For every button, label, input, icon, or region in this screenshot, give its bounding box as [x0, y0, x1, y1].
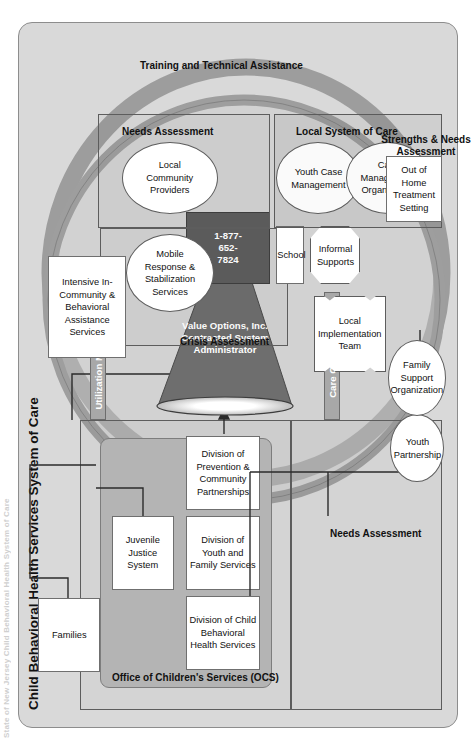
informal-supports-node[interactable]: Informal Supports	[310, 226, 360, 284]
family-support-organization-label: Family Support Organization	[390, 359, 444, 397]
out-of-home-treatment-node[interactable]: Out of Home Treatment Setting	[386, 156, 442, 222]
youth-partnership-node[interactable]: Youth Partnership	[390, 414, 444, 482]
region-needs-assessment-top-label: Needs Assessment	[122, 126, 213, 137]
local-implementation-team-label: Local Implementation Team	[316, 315, 384, 353]
rotated-diagram-host: State of New Jersey Child Behavioral Hea…	[0, 0, 473, 750]
diagram-stage: State of New Jersey Child Behavioral Hea…	[0, 0, 473, 750]
out-of-home-treatment-label: Out of Home Treatment Setting	[388, 164, 440, 214]
informal-supports-label: Informal Supports	[311, 243, 359, 268]
region-training-ta-label: Training and Technical Assistance	[140, 60, 303, 71]
local-community-providers-label: Local Community Providers	[139, 159, 201, 197]
intensive-in-community-box[interactable]: Intensive In-Community & Behavioral Assi…	[48, 256, 126, 358]
intensive-in-community-label: Intensive In-Community & Behavioral Assi…	[50, 276, 124, 339]
mobile-response-node[interactable]: Mobile Response & Stabilization Services	[126, 234, 214, 312]
school-label: School	[277, 249, 303, 262]
family-support-organization-node[interactable]: Family Support Organization	[388, 340, 446, 416]
school-box[interactable]: School	[276, 226, 304, 284]
local-implementation-team-node[interactable]: Local Implementation Team	[314, 296, 386, 372]
local-community-providers-node[interactable]: Local Community Providers	[122, 142, 218, 214]
region-crisis-assessment-label: Crisis Assessment	[180, 336, 269, 347]
youth-partnership-label: Youth Partnership	[392, 436, 442, 461]
mobile-response-label: Mobile Response & Stabilization Services	[136, 248, 204, 298]
region-strengths-needs-label: Strengths & Needs Assessment	[378, 134, 473, 158]
